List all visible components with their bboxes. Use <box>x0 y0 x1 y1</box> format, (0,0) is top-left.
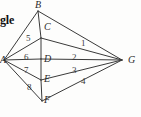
figure-edges <box>0 0 141 117</box>
edge-DG <box>41 59 122 60</box>
geometry-figure: gle ABCDEFG 12345678 <box>0 0 141 117</box>
angle-label-4: 4 <box>81 77 86 86</box>
vertex-label-d: D <box>44 54 51 64</box>
edge-BC <box>38 11 41 38</box>
angle-label-2: 2 <box>72 53 77 62</box>
angle-label-5: 5 <box>26 34 31 43</box>
vertex-label-g: G <box>128 55 135 65</box>
vertex-label-f: F <box>44 95 50 105</box>
edge-AE <box>4 60 41 80</box>
vertex-label-a: A <box>0 55 6 65</box>
angle-label-6: 6 <box>24 53 29 62</box>
edge-EF <box>41 80 42 101</box>
caption-fragment: gle <box>0 14 14 26</box>
angle-label-7: 7 <box>24 66 29 75</box>
vertex-label-e: E <box>44 74 50 84</box>
angle-label-3: 3 <box>72 66 77 75</box>
vertex-label-c: C <box>44 22 51 32</box>
vertex-label-b: B <box>35 0 41 10</box>
edge-AD <box>4 59 41 60</box>
angle-label-8: 8 <box>27 83 32 92</box>
edge-AC <box>4 38 41 60</box>
edge-AF <box>4 60 42 101</box>
angle-label-1: 1 <box>81 39 86 48</box>
